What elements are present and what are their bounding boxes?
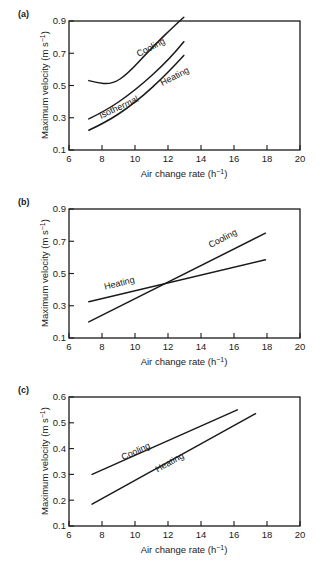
svg-text:18: 18 [262, 153, 273, 164]
svg-text:10: 10 [130, 153, 141, 164]
svg-text:0.5: 0.5 [53, 417, 66, 428]
svg-text:18: 18 [262, 529, 273, 540]
svg-text:0.3: 0.3 [53, 300, 66, 311]
svg-text:10: 10 [130, 341, 141, 352]
panel-a-y-ticks [69, 21, 74, 150]
svg-text:18: 18 [262, 341, 273, 352]
svg-text:20: 20 [295, 153, 306, 164]
panel-a-axes-frame [69, 21, 300, 150]
svg-text:0.2: 0.2 [53, 495, 66, 506]
panel-b-label-cooling: Cooling [207, 227, 239, 250]
panel-c-y-axis-title: Maximum velocity (m s−1) [39, 407, 51, 515]
panel-c-axes-frame [69, 397, 300, 526]
panel-b-label-heating: Heating [103, 274, 136, 291]
svg-text:14: 14 [196, 153, 207, 164]
svg-text:8: 8 [99, 529, 104, 540]
panel-c-plot: 0.1 0.2 0.3 0.4 0.5 0.6 6 8 10 [0, 376, 319, 566]
svg-text:14: 14 [196, 529, 207, 540]
svg-text:12: 12 [163, 529, 174, 540]
panel-a-plot: 0.1 0.3 0.5 0.7 0.9 6 8 10 1 [0, 0, 319, 190]
svg-text:0.7: 0.7 [53, 236, 66, 247]
svg-text:20: 20 [295, 341, 306, 352]
svg-text:12: 12 [163, 153, 174, 164]
panel-b-x-axis-title: Air change rate (h−1) [141, 356, 228, 368]
panel-a-y-tick-labels: 0.1 0.3 0.5 0.7 0.9 [53, 15, 66, 155]
svg-text:0.9: 0.9 [53, 15, 66, 26]
panel-a-x-tick-labels: 6 8 10 12 14 16 18 20 [66, 153, 305, 164]
svg-text:14: 14 [196, 341, 207, 352]
panel-b-x-tick-labels: 6 8 10 12 14 16 18 20 [66, 341, 305, 352]
panel-c-x-ticks [69, 521, 300, 526]
panel-c-x-axis-title: Air change rate (h−1) [141, 544, 228, 556]
panel-a-label-isothermal: Isothermal [98, 94, 140, 121]
svg-text:0.5: 0.5 [53, 80, 66, 91]
panel-a-y-axis-title: Maximum velocity (m s−1) [39, 31, 51, 139]
panel-b-y-ticks [69, 209, 74, 338]
panel-a-x-axis-title: Air change rate (h−1) [141, 168, 228, 180]
panel-b-y-axis-title: Maximum velocity (m s−1) [39, 219, 51, 327]
svg-text:8: 8 [99, 153, 104, 164]
panel-b-x-ticks [69, 333, 300, 338]
panel-b: (b) 0.1 0.3 0.5 0.7 0.9 [0, 188, 319, 378]
panel-c-y-ticks [69, 397, 74, 526]
svg-text:0.1: 0.1 [53, 332, 66, 343]
panel-b-curve-cooling [89, 233, 266, 322]
svg-text:16: 16 [229, 153, 240, 164]
panel-a-label-cooling: Cooling [135, 36, 167, 59]
svg-text:16: 16 [229, 529, 240, 540]
svg-text:8: 8 [99, 341, 104, 352]
panel-a-x-ticks [69, 145, 300, 150]
svg-text:10: 10 [130, 529, 141, 540]
panel-c-x-tick-labels: 6 8 10 12 14 16 18 20 [66, 529, 305, 540]
svg-text:0.7: 0.7 [53, 48, 66, 59]
panel-a-label-heating: Heating [159, 65, 191, 88]
svg-text:6: 6 [66, 529, 71, 540]
panel-c-y-tick-labels: 0.1 0.2 0.3 0.4 0.5 0.6 [53, 391, 66, 531]
panel-c-label-heating: Heating [154, 450, 186, 474]
panel-b-y-tick-labels: 0.1 0.3 0.5 0.7 0.9 [53, 203, 66, 343]
svg-text:0.3: 0.3 [53, 469, 66, 480]
panel-b-plot: 0.1 0.3 0.5 0.7 0.9 6 8 10 12 [0, 188, 319, 378]
svg-text:0.1: 0.1 [53, 144, 66, 155]
svg-text:20: 20 [295, 529, 306, 540]
panel-c: (c) 0.1 0.2 0.3 0.4 0.5 0.6 [0, 376, 319, 566]
svg-text:12: 12 [163, 341, 174, 352]
svg-text:0.3: 0.3 [53, 112, 66, 123]
svg-text:0.5: 0.5 [53, 268, 66, 279]
svg-text:0.4: 0.4 [53, 443, 66, 454]
svg-text:0.6: 0.6 [53, 391, 66, 402]
svg-text:6: 6 [66, 341, 71, 352]
svg-text:0.9: 0.9 [53, 203, 66, 214]
panel-c-label-cooling: Cooling [120, 440, 152, 462]
figure-three-panel-line-charts: (a) 0.1 0.3 0.5 0.7 0.9 [0, 0, 319, 571]
panel-a: (a) 0.1 0.3 0.5 0.7 0.9 [0, 0, 319, 190]
svg-text:0.1: 0.1 [53, 520, 66, 531]
svg-text:6: 6 [66, 153, 71, 164]
svg-text:16: 16 [229, 341, 240, 352]
